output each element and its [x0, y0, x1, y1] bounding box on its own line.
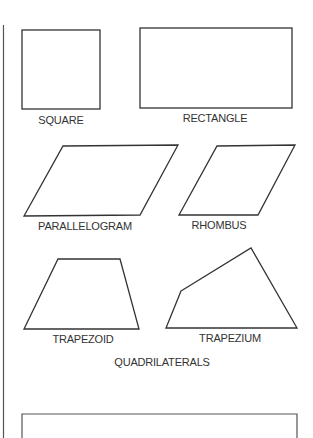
diagram-title: QUADRILATERALS — [114, 356, 209, 368]
parallelogram-shape — [24, 145, 178, 216]
shapes-canvas — [0, 0, 313, 438]
trapezium-label: TRAPEZIUM — [199, 332, 261, 344]
trapezium-shape — [166, 248, 297, 328]
parallelogram-label: PARALLELOGRAM — [38, 220, 132, 232]
rhombus-shape — [179, 145, 295, 215]
trapezoid-label: TRAPEZOID — [52, 333, 113, 345]
trapezoid-shape — [24, 259, 139, 329]
rectangle-shape — [140, 28, 292, 108]
rhombus-label: RHOMBUS — [192, 219, 247, 231]
bottom-box — [22, 414, 297, 438]
square-shape — [22, 30, 100, 109]
quadrilaterals-diagram: SQUARE RECTANGLE PARALLELOGRAM RHOMBUS T… — [0, 0, 313, 438]
square-label: SQUARE — [38, 114, 83, 126]
rectangle-label: RECTANGLE — [183, 112, 248, 124]
